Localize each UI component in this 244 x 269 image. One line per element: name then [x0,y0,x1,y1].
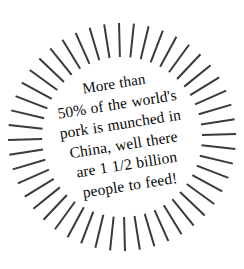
sunburst-ray [76,33,90,64]
sunburst-ray [124,217,125,251]
sunburst-ray [180,192,205,215]
sunburst-ray [145,214,155,247]
sunburst-ray [119,23,120,57]
sunburst-ray [141,26,149,59]
sunburst-ray [164,205,182,234]
sunburst-ray [130,24,134,58]
sunburst-ray [104,24,109,58]
sunburst-ray [187,184,215,204]
sunburst-ray [110,217,114,251]
sunburst-ray [39,59,64,82]
sunburst-ray [50,48,71,74]
fact-card: More than 50% of the world's pork is mun… [0,0,244,269]
sunburst-ray [151,31,163,63]
sunburst-ray [62,40,80,69]
sunburst-ray [155,210,169,241]
sunburst-ray [81,212,93,244]
sunburst-ray [160,37,176,67]
sunburst-ray [95,215,103,248]
sunburst-ray [68,207,84,237]
sunburst-ray [90,28,100,61]
fact-text-block: More than 50% of the world's pork is mun… [28,61,215,208]
sunburst-ray [135,216,140,250]
sunburst-ray [172,199,193,225]
